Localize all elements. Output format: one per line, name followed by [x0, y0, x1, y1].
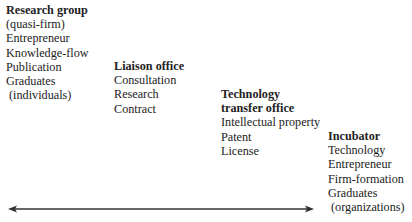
tto-item: Intellectual property [221, 115, 320, 129]
research-group-title: Research group [6, 3, 89, 17]
tto-title-line-1: Technology [221, 87, 320, 101]
tto-title-line-2: transfer office [221, 101, 320, 115]
liaison-office-item: Consultation [114, 73, 184, 87]
research-group-column: Research group (quasi-firm) Entrepreneur… [6, 3, 89, 102]
incubator-item: (organizations) [328, 200, 405, 214]
incubator-column: Incubator Technology Entrepreneur Firm-f… [328, 129, 405, 214]
incubator-item: Entrepreneur [328, 157, 405, 171]
research-group-item: (individuals) [6, 88, 89, 102]
research-group-item: Publication [6, 60, 89, 74]
tto-item: License [221, 144, 320, 158]
research-group-item: Entrepreneur [6, 31, 89, 45]
incubator-item: Technology [328, 143, 405, 157]
research-group-item: Graduates [6, 74, 89, 88]
double-headed-arrow-icon [8, 204, 314, 214]
research-group-item: Knowledge-flow [6, 46, 89, 60]
liaison-office-item: Contract [114, 102, 184, 116]
research-group-item: (quasi-firm) [6, 17, 89, 31]
incubator-item: Firm-formation [328, 172, 405, 186]
liaison-office-column: Liaison office Consultation Research Con… [114, 59, 184, 116]
technology-transfer-office-column: Technology transfer office Intellectual … [221, 87, 320, 158]
incubator-title: Incubator [328, 129, 405, 143]
liaison-office-item: Research [114, 87, 184, 101]
incubator-item: Graduates [328, 186, 405, 200]
liaison-office-title: Liaison office [114, 59, 184, 73]
tto-item: Patent [221, 130, 320, 144]
